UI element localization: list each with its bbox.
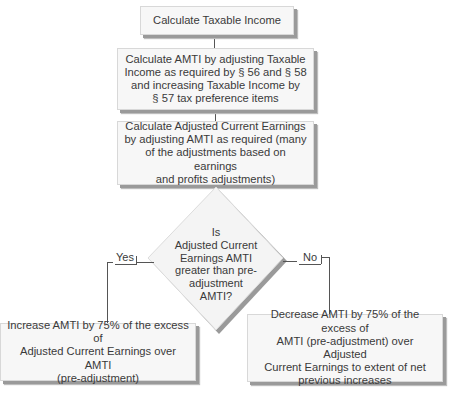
yes-outcome-line: Increase AMTI by 75% of the excess of bbox=[7, 319, 189, 345]
decision-line: AMTI? bbox=[166, 290, 266, 303]
decision-line: adjustment bbox=[166, 277, 266, 290]
no-branch-top bbox=[322, 257, 329, 258]
yes-outcome-text: Increase AMTI by 75% of the excess of Ad… bbox=[7, 319, 189, 385]
no-branch-horizontal bbox=[283, 261, 297, 262]
yes-label-underline bbox=[115, 264, 137, 265]
decision-line: Adjusted Current bbox=[166, 239, 266, 252]
no-outcome-line: Decrease AMTI by 75% of the excess of bbox=[254, 308, 436, 334]
decision-text: Is Adjusted Current Earnings AMTI greate… bbox=[166, 226, 266, 303]
no-branch-vertical bbox=[329, 257, 330, 314]
yes-branch-horizontal bbox=[137, 262, 154, 263]
no-label: No bbox=[303, 251, 317, 263]
decision-line: Is bbox=[166, 226, 266, 239]
outcome-decrease-amti: Decrease AMTI by 75% of the excess of AM… bbox=[247, 314, 443, 382]
yes-outcome-line: (pre-adjustment) bbox=[7, 372, 189, 385]
no-label-underline bbox=[299, 264, 321, 265]
no-outcome-line: previous increases bbox=[254, 374, 436, 387]
no-outcome-line: AMTI (pre-adjustment) over Adjusted bbox=[254, 335, 436, 361]
decision-line: Earnings AMTI bbox=[166, 252, 266, 265]
decision-line: greater than pre- bbox=[166, 264, 266, 277]
outcome-increase-amti: Increase AMTI by 75% of the excess of Ad… bbox=[0, 323, 196, 381]
yes-branch-vertical bbox=[107, 262, 108, 323]
yes-label-bracket bbox=[136, 256, 137, 264]
yes-label: Yes bbox=[116, 251, 134, 263]
no-outcome-text: Decrease AMTI by 75% of the excess of AM… bbox=[254, 308, 436, 387]
no-outcome-line: Current Earnings to extent of net bbox=[254, 361, 436, 374]
yes-outcome-line: Adjusted Current Earnings over AMTI bbox=[7, 345, 189, 371]
